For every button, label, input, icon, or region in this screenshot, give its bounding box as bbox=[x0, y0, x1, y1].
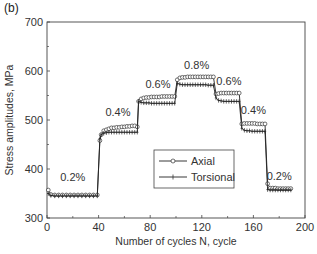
y-tick-label: 700 bbox=[25, 16, 43, 28]
circle-marker bbox=[212, 75, 216, 79]
x-tick-label: 80 bbox=[144, 221, 156, 233]
strain-level-label: 0.6% bbox=[216, 75, 241, 87]
strain-level-label: 0.4% bbox=[241, 104, 266, 116]
x-tick-label: 160 bbox=[244, 221, 262, 233]
legend-label: Torsional bbox=[191, 171, 235, 183]
circle-marker bbox=[263, 122, 267, 126]
x-tick-label: 40 bbox=[92, 221, 104, 233]
strain-level-label: 0.2% bbox=[267, 170, 292, 182]
y-tick-label: 600 bbox=[25, 65, 43, 77]
strain-level-label: 0.8% bbox=[184, 59, 209, 71]
y-tick-label: 300 bbox=[25, 212, 43, 224]
x-tick-label: 120 bbox=[193, 221, 211, 233]
legend-label: Axial bbox=[191, 155, 215, 167]
plot-frame bbox=[47, 22, 305, 218]
y-axis-label: Stress amplitudes, MPa bbox=[3, 64, 15, 175]
legend: AxialTorsional bbox=[154, 150, 235, 188]
strain-level-label: 0.6% bbox=[145, 78, 170, 90]
x-tick-label: 200 bbox=[296, 221, 314, 233]
y-tick-label: 500 bbox=[25, 114, 43, 126]
x-axis-label: Number of cycles N, cycle bbox=[115, 235, 237, 247]
y-tick-label: 400 bbox=[25, 163, 43, 175]
legend-circle-icon bbox=[171, 159, 175, 163]
strain-level-label: 0.2% bbox=[60, 171, 85, 183]
axes: 04080120160200300400500600700Number of c… bbox=[3, 16, 314, 247]
x-tick-label: 0 bbox=[44, 221, 50, 233]
strain-level-label: 0.4% bbox=[105, 106, 130, 118]
circle-marker bbox=[237, 91, 241, 95]
stress-amplitude-chart: 04080120160200300400500600700Number of c… bbox=[0, 0, 317, 254]
